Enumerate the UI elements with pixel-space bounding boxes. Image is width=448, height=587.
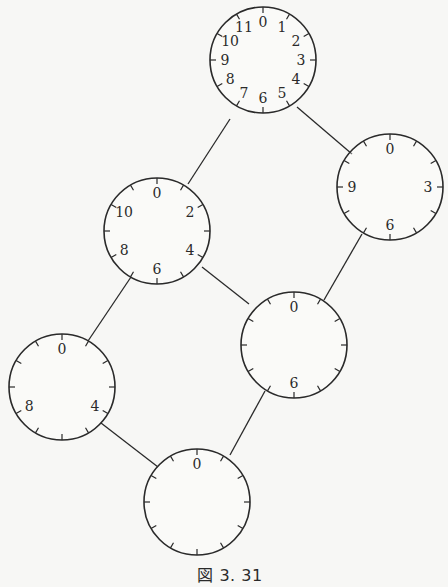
clock-1: 0 (144, 449, 250, 555)
tick-label: 10 (221, 33, 239, 49)
tick-label: 4 (291, 71, 300, 87)
lattice-diagram: 0123456789101102468100369048060 図 3. 31 (0, 0, 448, 587)
edge-clock-2-clock-1 (230, 391, 265, 455)
tick-label: 9 (221, 52, 230, 68)
tick-label: 6 (259, 90, 268, 106)
tick-label: 6 (290, 375, 299, 391)
tick-label: 7 (240, 85, 249, 101)
edge-clock-4-clock-2 (324, 234, 362, 300)
diagram-canvas: 0123456789101102468100369048060 (0, 0, 448, 587)
tick-label: 8 (25, 398, 34, 414)
tick-label: 6 (153, 261, 162, 277)
clock-2: 06 (241, 292, 347, 398)
tick-label: 0 (386, 141, 395, 157)
tick-label: 3 (424, 179, 433, 195)
tick-label: 6 (386, 217, 395, 233)
clock-3: 048 (9, 334, 115, 440)
tick-label: 3 (297, 52, 306, 68)
edge-clock-12-clock-6 (188, 119, 230, 184)
edge-clock-6-clock-3 (88, 277, 131, 341)
tick-label: 4 (90, 398, 99, 414)
tick-label: 10 (115, 204, 133, 220)
edge-clock-3-clock-1 (101, 423, 158, 467)
tick-label: 2 (185, 204, 194, 220)
tick-label: 4 (185, 242, 194, 258)
tick-label: 0 (193, 456, 202, 472)
tick-label: 8 (226, 71, 235, 87)
clock-6: 0246810 (104, 178, 210, 284)
clock-nodes: 0123456789101102468100369048060 (9, 7, 443, 555)
edge-clock-12-clock-4 (297, 107, 352, 154)
tick-label: 1 (278, 19, 287, 35)
edge-clock-6-clock-2 (202, 267, 249, 304)
tick-label: 5 (278, 85, 287, 101)
clock-4: 0369 (337, 134, 443, 240)
figure-caption: 図 3. 31 (180, 562, 280, 586)
tick-label: 0 (259, 14, 268, 30)
tick-label: 8 (120, 242, 129, 258)
tick-label: 0 (153, 185, 162, 201)
edges (88, 107, 362, 467)
tick-label: 0 (290, 299, 299, 315)
tick-label: 2 (291, 33, 300, 49)
clock-12: 01234567891011 (210, 7, 316, 113)
tick-label: 0 (58, 341, 67, 357)
tick-label: 11 (235, 19, 253, 35)
tick-label: 9 (348, 179, 357, 195)
